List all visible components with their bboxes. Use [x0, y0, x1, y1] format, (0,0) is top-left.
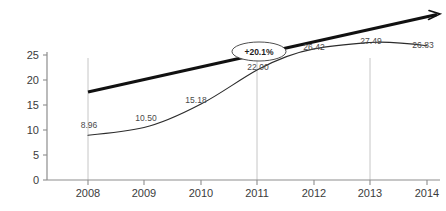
chart-container: 0 5 10 15 20 25 2008 2009 2010 2011 2012…	[0, 0, 446, 211]
x-tick-label-2008: 2008	[76, 187, 100, 199]
x-tick-label-2009: 2009	[132, 187, 156, 199]
point-label-2012: 26.42	[303, 42, 325, 52]
x-tick-label-2010: 2010	[189, 187, 213, 199]
y-tick-label-20: 20	[27, 74, 39, 86]
y-tick-label-0: 0	[33, 174, 39, 186]
point-label-2008: 8.96	[81, 120, 98, 130]
y-tick-label-5: 5	[33, 149, 39, 161]
point-label-2011: 22.00	[247, 62, 269, 72]
growth-callout: +20.1%	[232, 42, 286, 61]
x-tick-label-2013: 2013	[358, 187, 382, 199]
point-label-2014: 26.83	[412, 40, 434, 50]
y-tick-label-15: 15	[27, 99, 39, 111]
point-label-2010: 15.18	[185, 95, 207, 105]
y-axis: 0 5 10 15 20 25	[27, 49, 47, 186]
x-axis: 2008 2009 2010 2011 2012 2013 2014	[47, 180, 440, 199]
x-tick-label-2014: 2014	[415, 187, 439, 199]
line-chart: 0 5 10 15 20 25 2008 2009 2010 2011 2012…	[0, 0, 446, 211]
point-label-2009: 10.50	[135, 113, 157, 123]
callout-label: +20.1%	[244, 47, 274, 57]
point-label-2013: 27.49	[360, 36, 382, 46]
y-tick-label-25: 25	[27, 49, 39, 61]
x-tick-label-2011: 2011	[245, 187, 269, 199]
y-tick-label-10: 10	[27, 124, 39, 136]
gridlines	[88, 58, 370, 180]
x-tick-label-2012: 2012	[302, 187, 326, 199]
